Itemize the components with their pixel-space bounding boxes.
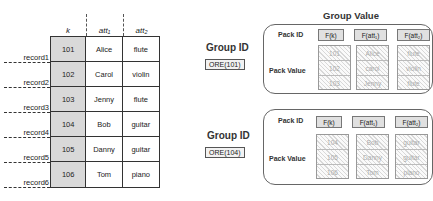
pack-value-label: Pack Value bbox=[269, 67, 306, 74]
records-table: 101 Alice flute 102 Carol violin 103 Jen… bbox=[50, 36, 160, 188]
cell-att2: guitar bbox=[123, 137, 159, 161]
pack-value-k: 101 102 103 bbox=[318, 45, 351, 90]
record-label: record4 bbox=[4, 128, 50, 138]
cell-att1: Jenny bbox=[86, 87, 122, 111]
cell-att1: Alice bbox=[86, 37, 122, 61]
table-row: 102 Carol violin bbox=[51, 62, 159, 87]
record-label: record5 bbox=[4, 153, 50, 163]
pack-value-att1: Bob Danny Tom bbox=[356, 134, 389, 179]
table-row: 104 Bob guitar bbox=[51, 112, 159, 137]
record-label: record3 bbox=[4, 103, 50, 113]
pack-value-att2: flute violin flute bbox=[397, 45, 430, 90]
pack-id-att1: F(att₁) bbox=[352, 116, 385, 128]
pack-id-k: F(k) bbox=[318, 29, 344, 41]
record-label: record6 bbox=[4, 178, 50, 188]
record-label: record1 bbox=[4, 53, 50, 63]
group-id-title: Group ID bbox=[206, 42, 249, 53]
cell-k: 101 bbox=[51, 37, 86, 61]
pack-value-att2: guitar guitar piano bbox=[395, 134, 428, 179]
group-value-title: Group Value bbox=[323, 10, 379, 21]
group-value-panel: Pack ID Pack Value F(k) F(att₁) F(att₂) … bbox=[263, 24, 433, 94]
pack-id-label: Pack ID bbox=[278, 31, 303, 38]
table-row: 106 Tom piano bbox=[51, 162, 159, 187]
pack-id-att2: F(att₂) bbox=[395, 116, 428, 128]
group-id-value: ORE(104) bbox=[205, 147, 245, 158]
pack-value-label: Pack Value bbox=[269, 155, 306, 162]
column-header-att2: att₂ bbox=[123, 26, 160, 35]
table-row: 101 Alice flute bbox=[51, 37, 159, 62]
pack-value-k: 104 105 106 bbox=[316, 134, 349, 179]
cell-att2: guitar bbox=[123, 112, 159, 136]
cell-att1: Tom bbox=[86, 162, 122, 187]
cell-att2: flute bbox=[123, 37, 159, 61]
pack-id-k: F(k) bbox=[316, 116, 342, 128]
cell-k: 104 bbox=[51, 112, 86, 136]
column-header-k: k bbox=[50, 26, 86, 35]
cell-att2: flute bbox=[123, 87, 159, 111]
cell-att1: Bob bbox=[86, 112, 122, 136]
group-value-panel: Pack ID Pack Value F(k) F(att₁) F(att₂) … bbox=[263, 109, 433, 185]
group-id-value: ORE(101) bbox=[205, 59, 245, 70]
cell-att1: Carol bbox=[86, 62, 122, 86]
cell-k: 103 bbox=[51, 87, 86, 111]
table-row: 105 Danny guitar bbox=[51, 137, 159, 162]
cell-att2: piano bbox=[123, 162, 159, 187]
pack-id-label: Pack ID bbox=[278, 117, 303, 124]
pack-id-att1: F(att₁) bbox=[354, 29, 387, 41]
cell-k: 105 bbox=[51, 137, 86, 161]
cell-k: 102 bbox=[51, 62, 86, 86]
cell-att2: violin bbox=[123, 62, 159, 86]
record-label: record2 bbox=[4, 78, 50, 88]
pack-value-att1: Alice carol Jenny bbox=[356, 45, 389, 90]
cell-att1: Danny bbox=[86, 137, 122, 161]
pack-id-att2: F(att₂) bbox=[397, 29, 430, 41]
column-header-att1: att₁ bbox=[86, 26, 123, 35]
table-row: 103 Jenny flute bbox=[51, 87, 159, 112]
group-id-title: Group ID bbox=[207, 130, 250, 141]
cell-k: 106 bbox=[51, 162, 86, 187]
